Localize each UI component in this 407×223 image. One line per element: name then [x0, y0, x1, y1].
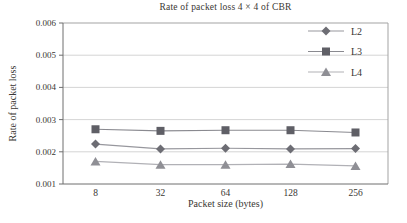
series-marker-L3 — [287, 126, 295, 134]
legend-label-L3: L3 — [351, 46, 362, 57]
x-tick-label: 32 — [156, 188, 166, 198]
x-tick-label: 64 — [221, 188, 231, 198]
y-tick-label: 0.006 — [36, 18, 57, 28]
y-tick-label: 0.005 — [36, 50, 57, 60]
legend-label-L4: L4 — [351, 67, 362, 78]
legend-label-L2: L2 — [351, 26, 362, 37]
y-tick-label: 0.001 — [36, 179, 56, 189]
x-tick-label: 256 — [348, 188, 363, 198]
legend-marker-L3 — [322, 48, 330, 56]
series-marker-L3 — [222, 126, 230, 134]
x-tick-label: 8 — [93, 188, 98, 198]
series-marker-L3 — [352, 128, 360, 136]
chart-canvas: 0.0010.0020.0030.0040.0050.0068326412825… — [0, 0, 407, 223]
series-marker-L2 — [91, 140, 100, 149]
x-tick-label: 128 — [283, 188, 298, 198]
x-axis-label: Packet size (bytes) — [63, 198, 388, 209]
y-tick-label: 0.003 — [36, 115, 57, 125]
y-tick-label: 0.002 — [36, 147, 56, 157]
chart-figure: Rate of packet loss 4 × 4 of CBR Rate of… — [0, 0, 407, 223]
y-tick-label: 0.004 — [36, 82, 57, 92]
series-marker-L3 — [157, 127, 165, 135]
series-marker-L3 — [92, 125, 100, 133]
legend-marker-L2 — [322, 27, 331, 36]
